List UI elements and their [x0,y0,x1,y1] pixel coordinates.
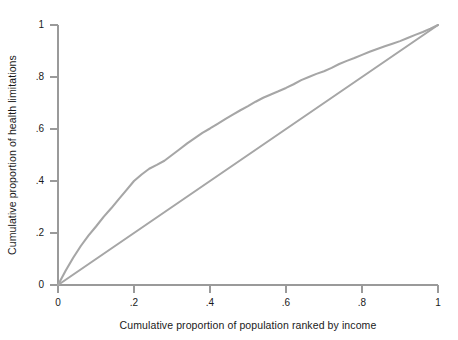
data-series-group [58,25,438,285]
line-of-equality [58,25,438,285]
y-axis-title: Cumulative proportion of health limitati… [6,55,18,255]
y-tick-label-0.4: .4 [36,175,45,186]
x-tick-label-0.2: .2 [130,297,139,308]
x-tick-label-0.6: .6 [282,297,291,308]
y-tick-label-1: 1 [38,19,44,30]
x-tick-label-0.8: .8 [358,297,367,308]
y-tick-label-0.2: .2 [36,227,45,238]
x-tick-labels: 0 .2 .4 .6 .8 1 [55,297,441,308]
y-tick-marks [50,25,58,285]
y-tick-labels: 0 .2 .4 .6 .8 1 [36,19,45,290]
x-tick-marks [58,285,438,293]
x-axis-title: Cumulative proportion of population rank… [120,319,377,331]
y-tick-label-0.6: .6 [36,123,45,134]
x-tick-label-0.4: .4 [206,297,215,308]
y-tick-label-0.8: .8 [36,71,45,82]
y-tick-label-0: 0 [38,279,44,290]
x-tick-label-0: 0 [55,297,61,308]
x-tick-label-1: 1 [435,297,441,308]
chart-figure: 0 .2 .4 .6 .8 1 0 .2 .4 .6 .8 1 Cumulati… [0,0,458,340]
lorenz-concentration-chart: 0 .2 .4 .6 .8 1 0 .2 .4 .6 .8 1 Cumulati… [0,0,458,340]
